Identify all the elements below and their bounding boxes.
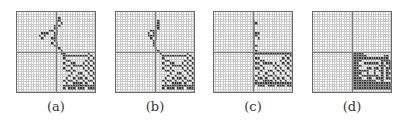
- panel-a-label: (a): [16, 99, 96, 114]
- panel-d: [312, 11, 392, 93]
- horizontal-divider: [213, 52, 293, 53]
- grid-cell: [389, 90, 391, 93]
- grid-cell: [192, 90, 194, 93]
- panel-b-label: (b): [115, 99, 195, 114]
- horizontal-divider: [312, 52, 392, 53]
- panel-d-label: (d): [312, 99, 392, 114]
- grid-cell: [290, 90, 292, 93]
- panel-c-label: (c): [213, 99, 293, 114]
- horizontal-divider: [16, 52, 96, 53]
- panel-c: [213, 11, 293, 93]
- panel-b: [115, 11, 195, 93]
- panel-a: [16, 11, 96, 93]
- horizontal-divider: [115, 52, 195, 53]
- grid-cell: [93, 90, 95, 93]
